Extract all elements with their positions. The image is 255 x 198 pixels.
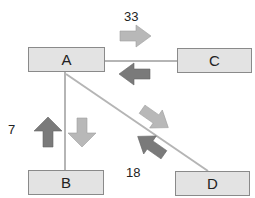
edge-a-c-value: 33 — [124, 9, 138, 24]
node-c-label: C — [209, 52, 220, 69]
arrow-down-right-icon — [136, 100, 175, 136]
node-d-label: D — [207, 175, 218, 192]
node-a: A — [28, 47, 105, 72]
node-d: D — [175, 171, 250, 196]
node-a-label: A — [61, 51, 71, 68]
arrow-up-icon — [34, 117, 62, 147]
arrow-down-icon — [68, 118, 96, 147]
node-c: C — [177, 48, 252, 73]
node-b-label: B — [61, 174, 71, 191]
edge-a-d-value: 18 — [126, 165, 140, 180]
arrow-right-icon — [120, 25, 151, 47]
node-b: B — [28, 170, 104, 195]
edge-a-b-value: 7 — [8, 122, 15, 137]
arrow-left-icon — [119, 63, 150, 85]
